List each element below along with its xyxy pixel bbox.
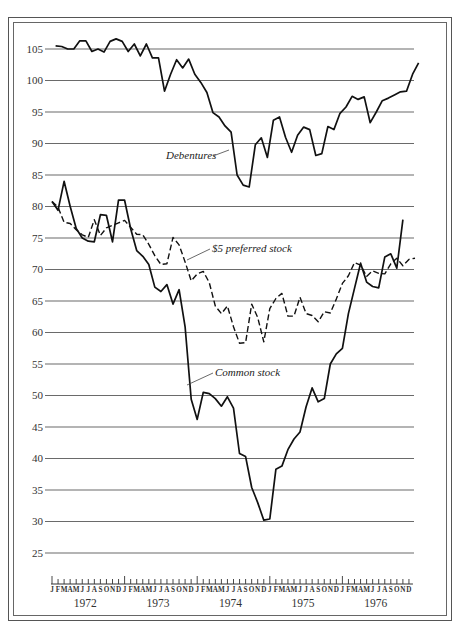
month-label: S — [389, 586, 393, 594]
y-tick-label: 60 — [32, 326, 44, 338]
preferred-stock-leader-line — [187, 249, 210, 260]
year-label: 1972 — [74, 597, 97, 609]
month-label: J — [87, 586, 91, 594]
month-label: M — [73, 586, 80, 594]
month-label: O — [104, 586, 110, 594]
month-label: D — [261, 586, 266, 594]
year-label: 1976 — [364, 597, 387, 609]
line-chart: 105100959085807570656055504540353025 JFM… — [0, 0, 465, 630]
month-label: J — [159, 586, 163, 594]
month-label: M — [218, 586, 225, 594]
month-label: J — [232, 586, 236, 594]
common-stock-annotation: Common stock — [187, 366, 281, 385]
y-tick-label: 70 — [32, 263, 44, 275]
month-label: M — [291, 586, 298, 594]
month-label: J — [153, 586, 157, 594]
y-tick-label: 25 — [32, 547, 44, 559]
month-label: A — [382, 586, 388, 594]
preferred-stock-annotation: $5 preferred stock — [187, 242, 293, 260]
y-tick-label: 35 — [32, 484, 44, 496]
month-label: J — [80, 586, 84, 594]
year-label: 1974 — [219, 597, 242, 609]
month-label: M — [363, 586, 370, 594]
common-stock-label: Common stock — [215, 366, 281, 378]
month-label: O — [394, 586, 400, 594]
month-label: S — [98, 586, 102, 594]
month-label: S — [171, 586, 175, 594]
month-label: S — [244, 586, 248, 594]
month-label: A — [164, 586, 170, 594]
y-tick-label: 80 — [32, 200, 44, 212]
month-label: D — [189, 586, 194, 594]
month-label: O — [321, 586, 327, 594]
y-tick-label: 100 — [27, 74, 44, 86]
y-tick-label: 55 — [32, 358, 44, 370]
month-label: M — [145, 586, 152, 594]
month-label: S — [316, 586, 320, 594]
series-line-common-stock — [52, 181, 403, 520]
preferred-stock-label: $5 preferred stock — [212, 242, 293, 254]
y-tick-label: 90 — [32, 137, 44, 149]
debentures-label: Debentures — [165, 149, 216, 161]
month-label: J — [304, 586, 308, 594]
y-tick-label: 40 — [32, 452, 44, 464]
y-tick-label: 95 — [32, 106, 44, 118]
month-label: J — [195, 586, 199, 594]
series-line-5-preferred-stock — [52, 202, 415, 344]
month-label: J — [371, 586, 375, 594]
month-label: D — [406, 586, 411, 594]
gridlines — [45, 49, 414, 553]
y-tick-label: 50 — [32, 389, 44, 401]
month-label: J — [377, 586, 381, 594]
year-label: 1973 — [146, 597, 169, 609]
y-axis-tick-labels: 105100959085807570656055504540353025 — [27, 43, 44, 559]
x-axis: JFMAMJJASONDJFMAMJJASONDJFMAMJJASONDJFMA… — [50, 576, 413, 609]
month-label: J — [123, 586, 127, 594]
y-tick-label: 65 — [32, 295, 44, 307]
y-tick-label: 85 — [32, 169, 44, 181]
y-tick-label: 105 — [27, 43, 44, 55]
year-label: 1975 — [292, 597, 315, 609]
month-label: O — [176, 586, 182, 594]
y-tick-label: 30 — [32, 515, 44, 527]
month-label: J — [50, 586, 54, 594]
month-label: J — [226, 586, 230, 594]
month-label: D — [116, 586, 121, 594]
common-stock-leader-line — [187, 373, 213, 385]
series-lines — [52, 39, 419, 520]
month-label: O — [249, 586, 255, 594]
month-label: D — [334, 586, 339, 594]
month-label: J — [268, 586, 272, 594]
month-label: A — [237, 586, 243, 594]
month-label: J — [341, 586, 345, 594]
month-label: A — [310, 586, 316, 594]
debentures-annotation: Debentures — [165, 149, 229, 161]
series-line-debentures — [56, 39, 419, 187]
y-tick-label: 45 — [32, 421, 44, 433]
month-label: J — [298, 586, 302, 594]
month-label: A — [92, 586, 98, 594]
y-tick-label: 75 — [32, 232, 44, 244]
